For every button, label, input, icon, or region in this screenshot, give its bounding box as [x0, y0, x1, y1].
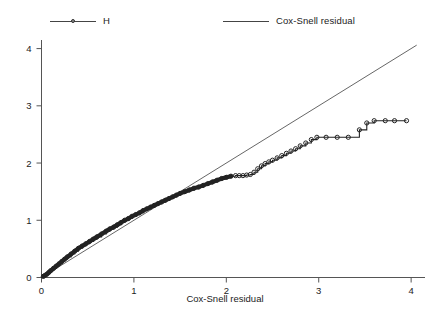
x-axis-tick-label: 1	[131, 285, 136, 296]
x-axis-tick-label: 0	[39, 285, 44, 296]
y-axis-tick-label: 0	[26, 272, 31, 283]
step-markers-h	[41, 119, 408, 279]
y-axis-tick-label: 2	[26, 158, 31, 169]
axes: 01234 01234	[26, 40, 425, 296]
x-axis-tick-label: 4	[408, 285, 413, 296]
y-axis-tick-label: 1	[26, 215, 31, 226]
y-axis-ticks: 01234	[26, 43, 41, 283]
x-axis-tick-label: 3	[316, 285, 321, 296]
cox-snell-residual-chart: H Cox-Snell residual 01234 01234 Cox-Sne…	[0, 0, 435, 327]
plot-area: 01234 01234 Cox-Snell residual	[0, 0, 435, 327]
dense-point-cluster	[43, 176, 231, 276]
y-axis-tick-label: 4	[26, 43, 31, 54]
data-series	[41, 45, 416, 278]
y-axis-tick-label: 3	[26, 100, 31, 111]
step-line-h	[43, 121, 406, 277]
x-axis-title: Cox-Snell residual	[186, 293, 263, 304]
reference-line-cox-snell	[42, 45, 417, 277]
